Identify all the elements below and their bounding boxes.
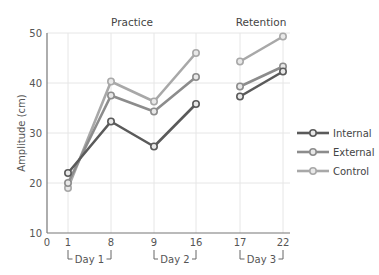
x-tick-label: 22 bbox=[277, 237, 290, 248]
day-bracket-left bbox=[154, 250, 158, 259]
data-point-control bbox=[237, 58, 243, 64]
day-bracket-right bbox=[279, 250, 284, 259]
data-point-control bbox=[280, 33, 286, 39]
data-point-external bbox=[237, 83, 243, 89]
series-line-control bbox=[68, 53, 196, 188]
data-point-external bbox=[108, 92, 114, 98]
day-label: Day 2 bbox=[160, 254, 189, 265]
y-tick-label: 30 bbox=[29, 128, 42, 139]
day-bracket-left bbox=[68, 250, 73, 259]
data-point-external bbox=[193, 74, 199, 80]
panel-title-retention: Retention bbox=[236, 16, 287, 28]
data-point-control bbox=[193, 50, 199, 56]
data-point-control bbox=[108, 78, 114, 84]
day-label: Day 1 bbox=[75, 254, 104, 265]
y-tick-label: 50 bbox=[29, 28, 42, 39]
legend-marker-icon bbox=[310, 168, 316, 174]
line-chart: 10203040500189161722Day 1Day 2Day 3Ampli… bbox=[0, 0, 379, 275]
x-tick-label: 9 bbox=[151, 237, 157, 248]
legend-marker-icon bbox=[310, 149, 316, 155]
x-tick-label: 17 bbox=[234, 237, 247, 248]
series-line-control bbox=[240, 37, 283, 62]
y-tick-label: 20 bbox=[29, 178, 42, 189]
data-point-internal bbox=[108, 118, 114, 124]
legend-marker-icon bbox=[310, 130, 316, 136]
data-point-internal bbox=[151, 143, 157, 149]
x-tick-label: 16 bbox=[190, 237, 203, 248]
day-bracket-right bbox=[192, 250, 196, 259]
day-bracket-left bbox=[240, 250, 245, 259]
x-tick-label: 0 bbox=[44, 237, 50, 248]
data-point-internal bbox=[193, 101, 199, 107]
x-tick-label: 1 bbox=[65, 237, 71, 248]
series-line-external bbox=[68, 77, 196, 183]
x-tick-label: 8 bbox=[108, 237, 114, 248]
data-point-control bbox=[151, 98, 157, 104]
panel-title-practice: Practice bbox=[111, 16, 153, 28]
legend-label-control: Control bbox=[333, 166, 369, 177]
data-point-internal bbox=[237, 93, 243, 99]
chart-container: 10203040500189161722Day 1Day 2Day 3Ampli… bbox=[0, 0, 379, 275]
legend-label-external: External bbox=[333, 147, 375, 158]
day-label: Day 3 bbox=[247, 254, 276, 265]
y-tick-label: 40 bbox=[29, 78, 42, 89]
legend-label-internal: Internal bbox=[333, 128, 372, 139]
data-point-external bbox=[151, 108, 157, 114]
data-point-external bbox=[65, 180, 71, 186]
data-point-internal bbox=[65, 170, 71, 176]
day-bracket-right bbox=[107, 250, 112, 259]
y-tick-label: 10 bbox=[29, 228, 42, 239]
data-point-internal bbox=[280, 68, 286, 74]
y-axis-label: Amplitude (cm) bbox=[16, 94, 27, 172]
